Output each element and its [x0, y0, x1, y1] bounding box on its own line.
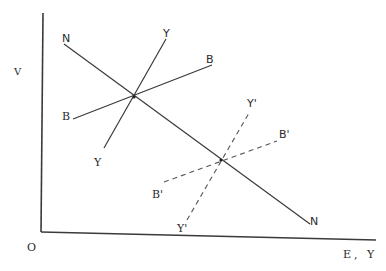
b-top-label: B [206, 53, 214, 66]
initial-curves [64, 39, 310, 224]
v-axis-label: V [13, 66, 22, 77]
initial-equilibrium-point [132, 95, 135, 98]
x-axis-label: E, Y [343, 248, 377, 261]
curve-diagram: V O E, Y N N Y Y B B Y' B' B' Y' [0, 0, 386, 271]
y-bottom-label: Y [93, 156, 102, 169]
n-bottom-label: N [310, 215, 318, 228]
bb-curve [73, 65, 212, 119]
y-prime-top-label: Y' [246, 97, 257, 110]
y-axis [41, 13, 43, 232]
y-prime-curve [187, 113, 249, 220]
y-prime-bottom-label: Y' [176, 222, 187, 235]
labels: V O E, Y N N Y Y B B Y' B' B' Y' [13, 27, 377, 261]
x-axis [41, 232, 376, 240]
yy-curve [104, 39, 166, 148]
n-top-label: N [62, 32, 70, 45]
b-prime-top-label: B' [279, 128, 290, 141]
b-prime-bottom-label: B' [152, 188, 163, 201]
origin-label: O [27, 241, 36, 254]
new-equilibrium-point [219, 158, 222, 161]
b-bottom-label: B [62, 110, 70, 123]
nn-curve [64, 44, 310, 224]
y-top-label: Y [162, 27, 170, 40]
axes [41, 13, 376, 240]
